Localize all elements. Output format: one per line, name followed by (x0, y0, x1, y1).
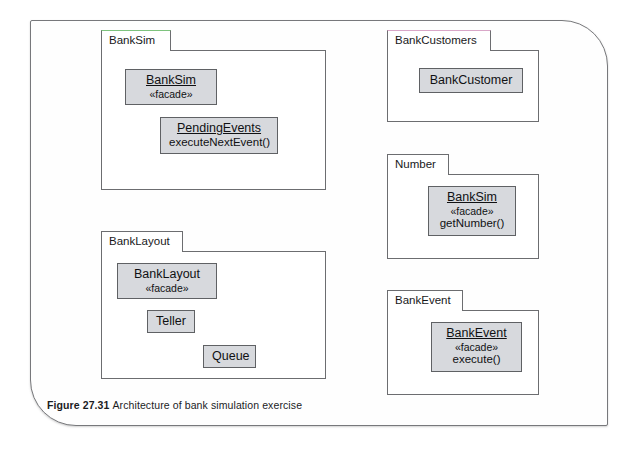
class-box-banksim: BankSim «facade» (125, 69, 217, 105)
package-bankcustomers: BankCustomers BankCustomer (387, 30, 539, 122)
package-tab-bankcustomers: BankCustomers (387, 30, 491, 51)
package-name-banklayout: BankLayout (109, 236, 170, 248)
class-stereotype-bankevent: «facade» (440, 341, 513, 353)
class-name-number-banksim: BankSim (437, 190, 507, 205)
package-tab-banksim: BankSim (101, 30, 171, 51)
class-name-teller: Teller (156, 314, 186, 329)
package-banksim: BankSim BankSim «facade» PendingEvents e… (101, 30, 326, 190)
class-stereotype-number-banksim: «facade» (437, 205, 507, 217)
package-number: Number BankSim «facade» getNumber() (387, 154, 539, 259)
class-operation-execute: execute() (440, 353, 513, 367)
package-tab-number: Number (387, 154, 449, 175)
class-stereotype-banklayout: «facade» (126, 282, 208, 294)
class-name-queue: Queue (212, 349, 247, 364)
class-name-banksim: BankSim (134, 73, 208, 88)
package-name-bankcustomers: BankCustomers (395, 35, 477, 47)
class-name-banklayout: BankLayout (126, 267, 208, 282)
figure-caption: Figure 27.31Architecture of bank simulat… (47, 399, 302, 411)
figure-screenshot: BankSim BankSim «facade» PendingEvents e… (0, 0, 632, 452)
package-name-banksim: BankSim (109, 35, 155, 47)
class-box-number-banksim: BankSim «facade» getNumber() (428, 186, 516, 236)
package-body-bankevent: BankEvent «facade» execute() (387, 310, 539, 395)
class-operation-getnumber: getNumber() (437, 217, 507, 231)
class-stereotype-banksim: «facade» (134, 88, 208, 100)
figure-caption-label: Figure 27.31 (47, 399, 109, 411)
class-box-pendingevents: PendingEvents executeNextEvent() (160, 117, 278, 154)
package-bankevent: BankEvent BankEvent «facade» execute() (387, 290, 539, 395)
package-body-number: BankSim «facade» getNumber() (387, 174, 539, 259)
package-body-banklayout: BankLayout «facade» Teller Queue (101, 251, 326, 379)
class-name-bankcustomer: BankCustomer (428, 73, 514, 88)
package-banklayout: BankLayout BankLayout «facade» Teller Qu… (101, 231, 326, 379)
class-operation-executenextevent: executeNextEvent() (169, 136, 269, 150)
package-name-number: Number (395, 159, 436, 171)
class-name-pendingevents: PendingEvents (169, 121, 269, 136)
class-box-banklayout: BankLayout «facade» (117, 263, 217, 299)
class-name-bankevent: BankEvent (440, 326, 513, 341)
book-page-sheet: BankSim BankSim «facade» PendingEvents e… (30, 20, 608, 426)
figure-caption-text: Architecture of bank simulation exercise (112, 399, 302, 411)
package-tab-bankevent: BankEvent (387, 290, 463, 311)
package-body-banksim: BankSim «facade» PendingEvents executeNe… (101, 50, 326, 190)
class-box-bankcustomer: BankCustomer (419, 68, 523, 93)
package-body-bankcustomers: BankCustomer (387, 50, 539, 122)
class-box-queue: Queue (203, 345, 256, 368)
package-tab-banklayout: BankLayout (101, 231, 183, 252)
package-name-bankevent: BankEvent (395, 295, 451, 307)
class-box-bankevent: BankEvent «facade» execute() (431, 322, 522, 372)
class-box-teller: Teller (147, 310, 195, 333)
